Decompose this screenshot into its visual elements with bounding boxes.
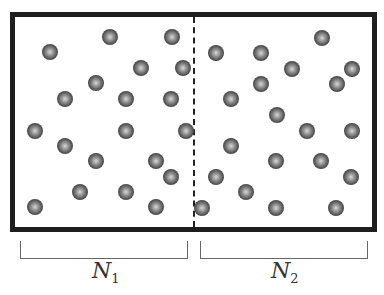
label-n1-symbol: N xyxy=(92,258,111,283)
particle-right xyxy=(253,76,269,92)
particle-left xyxy=(148,153,164,169)
particle-right xyxy=(329,76,345,92)
particle-right xyxy=(194,200,210,216)
particle-right xyxy=(269,107,285,123)
particle-right xyxy=(314,30,330,46)
particle-right xyxy=(268,153,284,169)
particle-left xyxy=(118,184,134,200)
particle-left xyxy=(27,199,43,215)
label-n2-symbol: N xyxy=(271,258,290,283)
particle-right xyxy=(328,200,344,216)
particle-right xyxy=(344,123,360,139)
particle-left xyxy=(163,169,179,185)
left-bracket xyxy=(20,241,188,259)
particle-right xyxy=(208,45,224,61)
particle-left xyxy=(118,123,134,139)
particle-left xyxy=(57,91,73,107)
particle-right xyxy=(238,184,254,200)
particle-right xyxy=(208,169,224,185)
particle-left xyxy=(163,91,179,107)
particle-left xyxy=(118,91,134,107)
particle-left xyxy=(27,123,43,139)
particle-right xyxy=(299,123,315,139)
particle-left xyxy=(148,199,164,215)
particle-left xyxy=(164,29,180,45)
right-bracket xyxy=(200,241,368,259)
partition-dashed-line xyxy=(193,17,195,227)
particle-left xyxy=(102,29,118,45)
particle-right xyxy=(223,91,239,107)
particle-right xyxy=(268,200,284,216)
particle-left xyxy=(88,75,104,91)
particle-left xyxy=(175,60,191,76)
particle-left xyxy=(88,153,104,169)
particle-right xyxy=(344,61,360,77)
particle-left xyxy=(42,44,58,60)
particle-right xyxy=(284,61,300,77)
label-n1-subscript: 1 xyxy=(111,271,119,286)
particle-left xyxy=(133,60,149,76)
particle-right xyxy=(343,169,359,185)
particle-left xyxy=(72,184,88,200)
particle-right xyxy=(313,153,329,169)
particle-right xyxy=(223,138,239,154)
particle-left xyxy=(57,138,73,154)
particle-right xyxy=(253,45,269,61)
particle-left xyxy=(178,123,194,139)
label-n1: N1 xyxy=(92,258,120,286)
label-n2: N2 xyxy=(271,258,299,286)
label-n2-subscript: 2 xyxy=(290,271,298,286)
